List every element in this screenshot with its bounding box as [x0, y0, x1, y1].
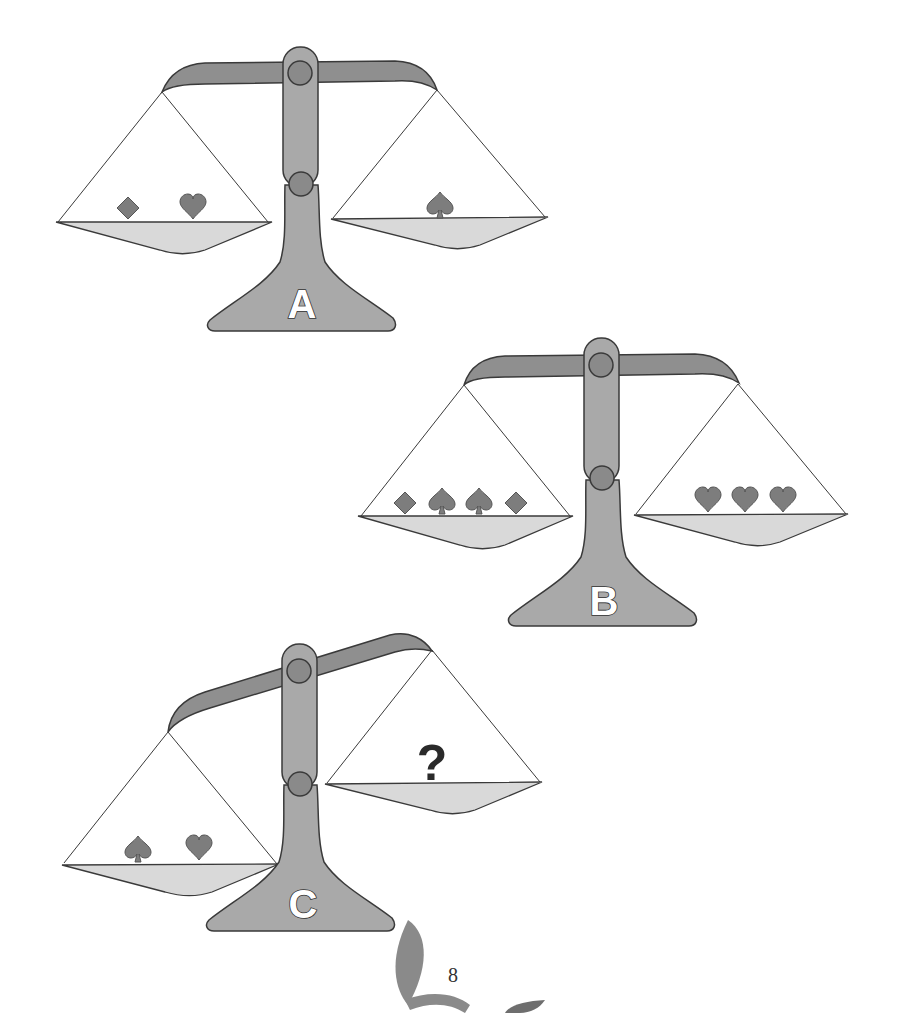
scale-c-top-pivot	[287, 659, 311, 683]
diamond-icon	[394, 492, 416, 514]
heart-icon	[180, 194, 206, 219]
scale-c-left-strings	[64, 732, 277, 864]
scale-a-left-pan	[56, 222, 272, 254]
scale-b-lower-pivot	[590, 466, 614, 490]
scale-c-left-pan	[62, 864, 279, 896]
scale-b-left-strings	[361, 385, 570, 516]
scale-c-lower-pivot	[288, 772, 312, 796]
scale-c-label: C	[289, 882, 318, 926]
scale-a-label: A	[288, 282, 317, 326]
scale-a-top-pivot	[288, 61, 312, 85]
scale-b-top-pivot	[589, 353, 613, 377]
scale-a-left-strings	[58, 92, 268, 222]
scale-a-right-pan	[331, 217, 548, 249]
heart-icon	[695, 487, 721, 512]
scale-b-left-pan	[358, 516, 573, 549]
spade-icon	[466, 488, 492, 514]
heart-icon	[770, 487, 796, 512]
scale-a: A	[56, 47, 548, 331]
leaf-logo	[395, 920, 545, 1013]
question-mark: ?	[417, 735, 448, 791]
leaf-stem	[405, 994, 470, 1013]
diamond-icon	[505, 492, 527, 514]
scale-b-right-pan	[634, 514, 848, 546]
diamond-icon	[117, 197, 139, 219]
leaf-icon	[395, 920, 423, 1005]
heart-icon	[732, 487, 758, 512]
scale-c: ? C	[62, 634, 542, 931]
leaf-right	[505, 1000, 545, 1013]
spade-icon	[429, 488, 455, 514]
scale-a-lower-pivot	[289, 172, 313, 196]
scale-b-label: B	[590, 579, 619, 623]
scale-b: B	[358, 338, 848, 626]
spade-icon	[125, 836, 151, 862]
spade-icon	[427, 192, 453, 218]
page-number: 8	[448, 964, 458, 987]
balance-puzzle-scene: A B ? C	[0, 0, 902, 1013]
heart-icon	[186, 835, 212, 860]
